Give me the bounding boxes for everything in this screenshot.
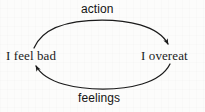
edge-bottom-arc: [36, 64, 170, 89]
edge-label-feelings: feelings: [78, 91, 120, 105]
edge-label-action: action: [81, 2, 114, 16]
cycle-diagram: I feel bad I overeat action feelings: [0, 0, 205, 112]
node-label-i-overeat: I overeat: [141, 48, 188, 64]
node-label-i-feel-bad: I feel bad: [6, 48, 56, 64]
edge-top-arc: [34, 20, 168, 48]
